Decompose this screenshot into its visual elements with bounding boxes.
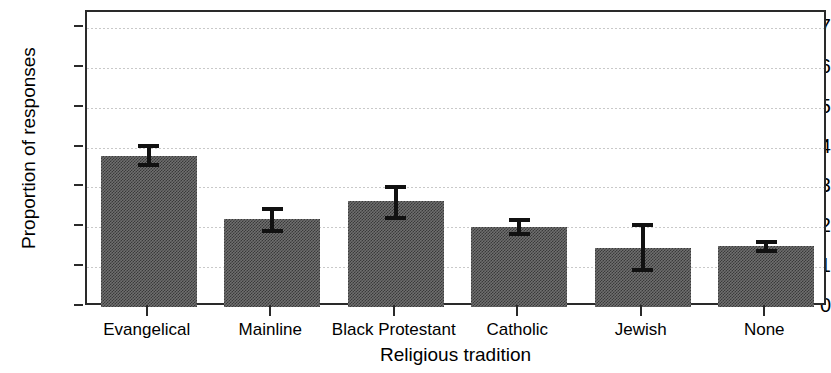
x-tick-mark: [516, 305, 518, 316]
y-tick-mark: [74, 65, 83, 67]
y-tick-mark: [74, 224, 83, 226]
y-tick-mark: [74, 264, 83, 266]
x-tick-mark: [269, 305, 271, 316]
y-tick-mark: [74, 184, 83, 186]
error-bar-line: [394, 185, 398, 220]
bar: [471, 227, 567, 307]
x-tick-label: Jewish: [615, 320, 667, 340]
error-bar-line: [641, 223, 645, 271]
bar: [101, 156, 197, 307]
error-bar-cap-upper: [756, 240, 777, 244]
bar: [718, 246, 814, 307]
x-tick-label: Evangelical: [103, 320, 190, 340]
error-bar-cap-upper: [385, 185, 406, 189]
x-tick-mark: [640, 305, 642, 316]
bars-and-errorbars: [87, 12, 824, 303]
x-tick-label: Catholic: [487, 320, 548, 340]
x-tick-mark: [393, 305, 395, 316]
error-bar-cap-lower: [509, 232, 530, 236]
y-axis-title: Proportion of responses: [16, 8, 42, 288]
x-tick-mark: [146, 305, 148, 316]
y-tick-mark: [74, 105, 83, 107]
error-bar-cap-upper: [509, 218, 530, 222]
error-bar-cap-lower: [262, 229, 283, 233]
y-tick-mark: [74, 304, 83, 306]
plot-area: [85, 10, 826, 305]
x-tick-label: Black Protestant: [332, 320, 456, 340]
error-bar-cap-lower: [632, 268, 653, 272]
error-bar-cap-upper: [632, 223, 653, 227]
x-tick-label: None: [744, 320, 785, 340]
bar-chart-figure: Proportion of responses 0.1.2.3.4.5.6.7 …: [0, 0, 831, 373]
x-tick-label: Mainline: [239, 320, 302, 340]
error-bar-cap-lower: [756, 249, 777, 253]
error-bar-cap-upper: [138, 144, 159, 148]
x-axis-title: Religious tradition: [85, 344, 826, 366]
y-tick-mark: [74, 145, 83, 147]
x-tick-mark: [763, 305, 765, 316]
error-bar-cap-upper: [262, 207, 283, 211]
error-bar-cap-lower: [138, 163, 159, 167]
y-tick-mark: [74, 25, 83, 27]
error-bar-cap-lower: [385, 216, 406, 220]
